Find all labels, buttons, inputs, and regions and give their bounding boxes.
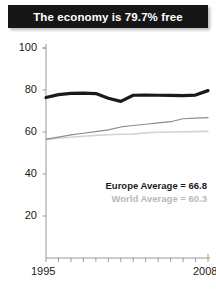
y-tick-label: 40: [5, 168, 37, 179]
economic-freedom-chart: The economy is 79.7% free 20406080100 19…: [0, 0, 216, 290]
series-line: [46, 118, 208, 139]
series-line: [46, 91, 208, 102]
legend: Europe Average = 66.8 World Average = 60…: [106, 180, 207, 205]
legend-world-average: World Average = 60.3: [106, 193, 207, 206]
y-tick-label: 80: [5, 84, 37, 95]
y-tick-label: 20: [5, 210, 37, 221]
series-layer: [46, 91, 208, 140]
x-tick-label: 1995: [31, 266, 55, 277]
axis-layer: [43, 44, 211, 262]
x-tick-label: 2008: [193, 266, 216, 277]
y-tick-label: 60: [5, 126, 37, 137]
legend-europe-average: Europe Average = 66.8: [106, 180, 207, 193]
y-tick-label: 100: [5, 42, 37, 53]
